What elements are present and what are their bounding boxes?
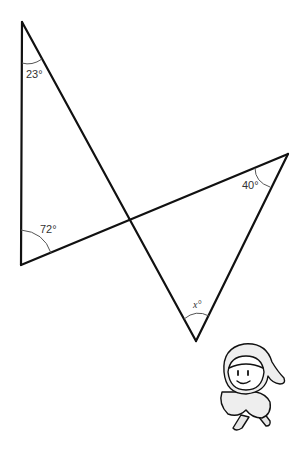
angle-arc-top [22,59,42,64]
angle-label-bottom-left: 72° [40,223,57,235]
segment-bottom-left-to-right [21,154,288,265]
geometry-diagram: 23° 72° 40° x° [0,0,306,455]
segment-top-to-bottom [22,22,196,341]
angle-label-bottom: x° [192,299,201,310]
segment-top-to-bottom-left [21,22,22,265]
angle-label-top: 23° [26,68,43,80]
hooded-character-icon [221,344,285,430]
angle-label-right: 40° [242,179,259,191]
angle-arc-bottom [184,313,209,319]
